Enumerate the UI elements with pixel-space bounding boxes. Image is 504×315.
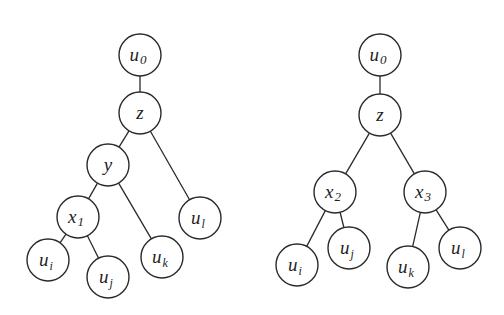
node-label-base: u — [99, 266, 109, 287]
node-ul: ul — [179, 197, 221, 239]
edge-z-ul — [150, 131, 189, 200]
node-label-base: y — [102, 154, 113, 175]
node-label-subscript: 0 — [140, 52, 147, 67]
node-x2: x2 — [314, 171, 356, 213]
node-label-subscript: 1 — [77, 214, 84, 229]
node-label-base: u — [191, 207, 201, 228]
node-u0: u0 — [119, 34, 161, 76]
edge-y-x1 — [88, 183, 97, 199]
node-label-base: u — [451, 237, 461, 258]
edge-x3-ul — [436, 210, 449, 230]
tree-diagram-canvas: u0zyx1ulukuiuj u0zx2x3uiujukul — [0, 0, 504, 315]
node-label-base: x — [414, 181, 424, 202]
node-u0: u0 — [359, 34, 401, 76]
edge-x1-ui — [60, 234, 66, 243]
node-uk: uk — [387, 246, 429, 288]
node-label-base: u — [398, 256, 408, 277]
node-label: z — [135, 102, 144, 123]
edge-z-x3 — [391, 133, 415, 174]
node-label-base: u — [152, 246, 162, 267]
left-tree: u0zyx1ulukuiuj — [27, 34, 221, 298]
node-label: z — [375, 104, 384, 125]
edge-z-x2 — [346, 133, 370, 174]
edge-x2-ui — [307, 211, 326, 247]
node-label-base: x — [67, 206, 77, 227]
node-label-base: u — [130, 44, 140, 65]
right-tree: u0zx2x3uiujukul — [276, 34, 481, 288]
node-ui: ui — [276, 244, 318, 286]
edge-x2-uj — [340, 212, 344, 227]
node-label-base: u — [288, 254, 298, 275]
node-label-base: z — [375, 104, 384, 125]
node-label-subscript: 0 — [380, 52, 387, 67]
node-label-subscript: 2 — [334, 189, 341, 204]
node-label-base: u — [340, 237, 350, 258]
node-label-subscript: i — [50, 259, 53, 273]
node-ul: ul — [439, 227, 481, 269]
node-uj: uj — [87, 256, 129, 298]
node-label-subscript: k — [409, 266, 415, 280]
node-y: y — [87, 144, 129, 186]
edge-x3-uk — [413, 212, 421, 246]
edge-z-y — [119, 131, 129, 147]
node-ui: ui — [27, 239, 69, 281]
node-x1: x1 — [57, 196, 99, 238]
node-uk: uk — [141, 236, 183, 278]
edge-y-uk — [119, 183, 152, 239]
node-z: z — [359, 94, 401, 136]
node-label-base: z — [135, 102, 144, 123]
node-label-subscript: i — [299, 264, 302, 278]
node-x3: x3 — [404, 171, 446, 213]
node-label-subscript: k — [163, 256, 169, 270]
node-label-base: u — [39, 249, 49, 270]
edge-x1-uj — [87, 236, 98, 258]
node-z: z — [119, 92, 161, 134]
node-label-base: u — [370, 44, 380, 65]
node-label: y — [102, 154, 113, 175]
node-uj: uj — [328, 227, 370, 269]
node-label-subscript: 3 — [423, 189, 431, 204]
node-label-base: x — [324, 181, 334, 202]
